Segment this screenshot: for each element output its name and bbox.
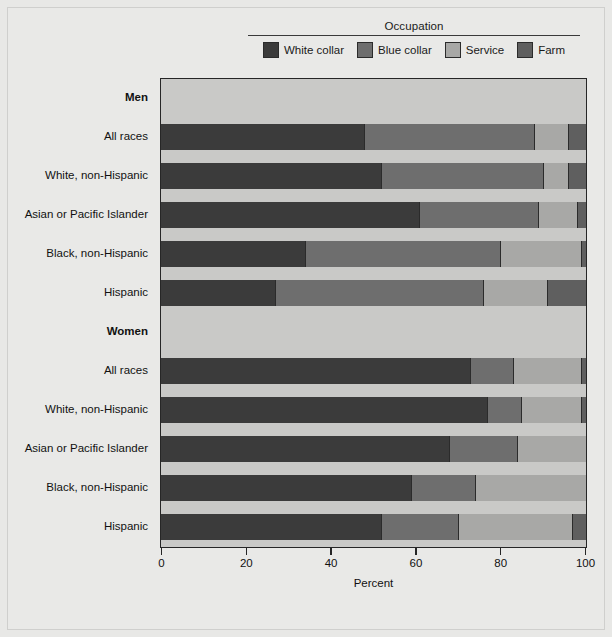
bar-segment[interactable] [382, 163, 544, 189]
bar-segment[interactable] [582, 241, 586, 267]
stacked-bar[interactable] [161, 436, 586, 462]
bar-rows [161, 79, 586, 547]
bar-segment[interactable] [518, 436, 586, 462]
bar-segment[interactable] [514, 358, 582, 384]
legend: Occupation White collarBlue collarServic… [238, 20, 590, 58]
legend-item[interactable]: Service [445, 42, 504, 58]
legend-item[interactable]: Blue collar [357, 42, 432, 58]
bar-segment[interactable] [161, 163, 382, 189]
y-axis-category-label: Hispanic [104, 520, 148, 532]
bar-segment[interactable] [578, 202, 587, 228]
bar-segment[interactable] [161, 436, 450, 462]
bar-segment[interactable] [459, 514, 574, 540]
bar-segment[interactable] [488, 397, 522, 423]
bar-segment[interactable] [476, 475, 587, 501]
legend-item-label: Blue collar [378, 44, 432, 56]
chart-frame: Occupation White collarBlue collarServic… [7, 7, 605, 630]
stacked-bar[interactable] [161, 163, 586, 189]
stacked-bar[interactable] [161, 124, 586, 150]
x-axis-tick-label: 20 [240, 557, 253, 569]
x-axis-tick [585, 548, 587, 555]
bar-segment[interactable] [161, 514, 382, 540]
legend-swatch-icon [517, 42, 533, 58]
legend-swatch-icon [357, 42, 373, 58]
x-axis-tick-label: 40 [325, 557, 338, 569]
stacked-bar[interactable] [161, 475, 586, 501]
y-axis-category-label: All races [104, 364, 148, 376]
y-axis-category-label: Black, non-Hispanic [46, 481, 148, 493]
stacked-bar[interactable] [161, 514, 586, 540]
y-axis-labels: MenAll racesWhite, non-HispanicAsian or … [8, 78, 154, 548]
legend-swatch-icon [445, 42, 461, 58]
legend-title: Occupation [238, 20, 590, 35]
bar-segment[interactable] [544, 163, 570, 189]
y-axis-category-label: White, non-Hispanic [45, 169, 148, 181]
x-axis-tick [500, 548, 502, 555]
legend-item-label: White collar [284, 44, 344, 56]
x-axis-tick-label: 80 [494, 557, 507, 569]
bar-segment[interactable] [471, 358, 514, 384]
y-axis-category-label: All races [104, 130, 148, 142]
legend-swatch-icon [263, 42, 279, 58]
bar-segment[interactable] [573, 514, 586, 540]
y-axis-category-label: Asian or Pacific Islander [25, 442, 148, 454]
legend-item-label: Service [466, 44, 504, 56]
bar-segment[interactable] [161, 475, 412, 501]
legend-item[interactable]: Farm [517, 42, 565, 58]
x-axis-tick-label: 100 [576, 557, 595, 569]
x-axis-tick [161, 548, 163, 555]
bar-segment[interactable] [535, 124, 569, 150]
y-axis-category-label: Asian or Pacific Islander [25, 208, 148, 220]
bar-segment[interactable] [306, 241, 502, 267]
bar-segment[interactable] [161, 397, 488, 423]
chart-page: Occupation White collarBlue collarServic… [0, 0, 612, 637]
bar-segment[interactable] [420, 202, 539, 228]
bar-segment[interactable] [582, 397, 586, 423]
bar-segment[interactable] [548, 280, 586, 306]
bar-segment[interactable] [539, 202, 577, 228]
y-axis-category-label: White, non-Hispanic [45, 403, 148, 415]
legend-items: White collarBlue collarServiceFarm [238, 36, 590, 58]
bar-segment[interactable] [161, 358, 471, 384]
bar-segment[interactable] [161, 241, 306, 267]
bar-segment[interactable] [365, 124, 535, 150]
x-axis-tick-label: 0 [158, 557, 164, 569]
bar-segment[interactable] [501, 241, 582, 267]
bar-segment[interactable] [382, 514, 459, 540]
stacked-bar[interactable] [161, 241, 586, 267]
bar-segment[interactable] [161, 202, 420, 228]
y-axis-group-label: Women [107, 325, 148, 337]
x-axis-tick [246, 548, 248, 555]
bar-segment[interactable] [569, 163, 586, 189]
x-axis-tick-label: 60 [409, 557, 422, 569]
legend-item-label: Farm [538, 44, 565, 56]
bar-segment[interactable] [161, 280, 276, 306]
x-axis-tick [415, 548, 417, 555]
bar-segment[interactable] [412, 475, 476, 501]
y-axis-group-label: Men [125, 91, 148, 103]
stacked-bar[interactable] [161, 397, 586, 423]
bar-segment[interactable] [582, 358, 586, 384]
stacked-bar[interactable] [161, 280, 586, 306]
stacked-bar[interactable] [161, 202, 586, 228]
x-axis-tick [330, 548, 332, 555]
x-axis-title: Percent [160, 577, 587, 589]
bar-segment[interactable] [522, 397, 582, 423]
bar-segment[interactable] [484, 280, 548, 306]
y-axis-category-label: Black, non-Hispanic [46, 247, 148, 259]
bar-segment[interactable] [569, 124, 586, 150]
bar-segment[interactable] [450, 436, 518, 462]
stacked-bar[interactable] [161, 358, 586, 384]
legend-item[interactable]: White collar [263, 42, 344, 58]
bar-segment[interactable] [161, 124, 365, 150]
bar-segment[interactable] [276, 280, 484, 306]
y-axis-category-label: Hispanic [104, 286, 148, 298]
plot-area [160, 78, 587, 548]
